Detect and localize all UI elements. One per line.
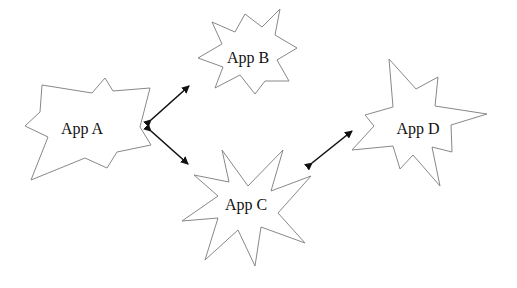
arrow-c-d — [312, 131, 352, 163]
node-app-c[interactable]: App C — [182, 150, 311, 266]
node-app-b[interactable]: App B — [198, 9, 297, 94]
diagram-svg: App A App B App C App D — [0, 0, 517, 288]
node-label-a: App A — [61, 120, 104, 138]
node-label-c: App C — [225, 196, 267, 214]
arrow-a-b — [151, 86, 189, 120]
node-label-b: App B — [227, 49, 269, 67]
diagram-canvas: App A App B App C App D — [0, 0, 517, 288]
node-app-d[interactable]: App D — [352, 59, 487, 186]
arrow-a-c — [151, 131, 188, 164]
node-label-d: App D — [396, 120, 439, 138]
node-app-a[interactable]: App A — [25, 78, 151, 180]
